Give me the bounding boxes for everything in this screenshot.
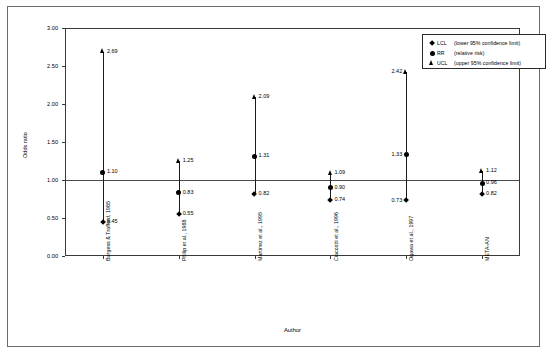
y-axis-title: Odds ratio (22, 132, 28, 158)
y-tick-mark (62, 256, 65, 257)
y-tick-mark (62, 142, 65, 143)
ucl-value-label: 1.25 (183, 158, 194, 164)
rr-marker (328, 185, 333, 190)
confidence-interval-line (179, 161, 180, 214)
ucl-value-label: 1.09 (334, 170, 345, 176)
ucl-value-label: 2.69 (107, 49, 118, 55)
reference-line-1 (66, 180, 519, 181)
rr-value-label: 1.31 (259, 153, 270, 159)
confidence-interval-line (406, 72, 407, 200)
x-tick-mark (103, 256, 104, 259)
ucl-marker (403, 69, 407, 74)
ucl-value-label: 2.42 (380, 69, 402, 75)
x-tick-label: Burgess & Trafford, 1985 (105, 201, 111, 261)
lcl-value-label: 0.73 (380, 198, 402, 204)
confidence-interval-line (103, 52, 104, 222)
legend-item-ucl: UCL(upper 95% confidence limit) (427, 58, 541, 68)
rr-marker (252, 154, 257, 159)
lcl-value-label: 0.74 (334, 197, 345, 203)
y-tick-mark (62, 28, 65, 29)
lcl-value-label: 0.45 (107, 219, 118, 225)
x-tick-mark (482, 256, 483, 259)
ucl-marker (252, 94, 256, 99)
x-tick-mark (330, 256, 331, 259)
y-tick-label: 1.00 (32, 177, 58, 183)
ucl-marker (479, 168, 483, 173)
figure-frame: Odds ratio 0.000.501.001.502.002.503.00 … (7, 6, 540, 347)
confidence-interval-line (255, 97, 256, 194)
ucl-triangle-icon (427, 58, 437, 68)
legend-label-lcl: LCL(lower 95% confidence limit) (437, 40, 520, 46)
x-tick-label: Ogawa et al., 1997 (408, 216, 414, 261)
rr-value-label: 1.33 (380, 152, 402, 158)
legend-label-rr: RR(relative risk) (437, 50, 484, 56)
y-tick-label: 0.00 (32, 253, 58, 259)
x-tick-label: Ciaccotti et al., 1996 (333, 212, 339, 261)
y-tick-label: 3.00 (32, 25, 58, 31)
lcl-value-label: 0.82 (486, 191, 497, 197)
x-tick-label: META-AN (484, 237, 490, 261)
rr-value-label: 0.96 (486, 180, 497, 186)
x-tick-label: Philip et al., 1988 (181, 219, 187, 261)
rr-value-label: 0.90 (334, 185, 345, 191)
y-tick-label: 1.50 (32, 139, 58, 145)
ucl-value-label: 1.12 (486, 168, 497, 174)
x-tick-label: Martinez et al., 1995 (257, 212, 263, 261)
x-axis-title: Author (233, 327, 353, 333)
y-tick-mark (62, 180, 65, 181)
rr-value-label: 1.10 (107, 169, 118, 175)
ucl-marker (176, 158, 180, 163)
y-tick-mark (62, 66, 65, 67)
lcl-value-label: 0.55 (183, 211, 194, 217)
y-tick-label: 0.50 (32, 215, 58, 221)
legend-item-lcl: LCL(lower 95% confidence limit) (427, 38, 541, 48)
ucl-marker (100, 48, 104, 53)
x-tick-mark (255, 256, 256, 259)
y-tick-mark (62, 218, 65, 219)
y-tick-mark (62, 104, 65, 105)
y-tick-label: 2.50 (32, 63, 58, 69)
rr-circle-icon (427, 48, 437, 58)
chart-legend: LCL(lower 95% confidence limit) RR(relat… (422, 34, 546, 69)
ucl-value-label: 2.09 (259, 94, 270, 100)
legend-item-rr: RR(relative risk) (427, 48, 541, 58)
ucl-marker (328, 170, 332, 175)
rr-value-label: 0.83 (183, 190, 194, 196)
y-tick-label: 2.00 (32, 101, 58, 107)
x-tick-mark (179, 256, 180, 259)
lcl-diamond-icon (427, 38, 437, 48)
legend-label-ucl: UCL(upper 95% confidence limit) (437, 60, 521, 66)
lcl-value-label: 0.82 (259, 191, 270, 197)
rr-marker (480, 181, 485, 186)
